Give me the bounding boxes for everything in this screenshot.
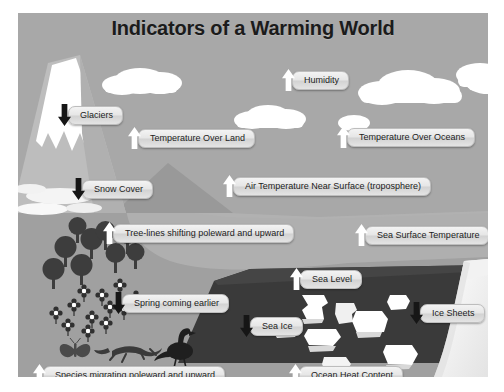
label-text: Ice Sheets — [420, 304, 485, 323]
label-temperature-over-land[interactable]: Temperature Over Land — [128, 127, 255, 149]
label-air-temperature-near-surface[interactable]: Air Temperature Near Surface (tropospher… — [223, 175, 431, 197]
arrow-down-icon — [58, 104, 71, 126]
label-glaciers[interactable]: Glaciers — [58, 104, 123, 126]
arrow-up-icon — [355, 224, 368, 246]
arrow-up-icon — [33, 364, 46, 377]
arrow-down-icon — [240, 315, 253, 337]
arrow-up-icon — [103, 222, 116, 244]
arrow-up-icon — [282, 69, 295, 91]
label-text: Humidity — [292, 71, 349, 90]
arrow-up-icon — [289, 364, 302, 377]
label-ice-sheets[interactable]: Ice Sheets — [410, 302, 485, 324]
label-tree-lines-shifting[interactable]: Tree-lines shifting poleward and upward — [103, 222, 294, 244]
label-text: Sea Surface Temperature — [365, 226, 488, 245]
label-text: Spring coming earlier — [122, 294, 229, 313]
label-text: Air Temperature Near Surface (tropospher… — [233, 177, 431, 196]
label-text: Temperature Over Oceans — [347, 128, 475, 147]
arrow-down-icon — [410, 302, 423, 324]
label-text: Glaciers — [68, 106, 123, 125]
arrow-up-icon — [290, 268, 303, 290]
arrow-up-icon — [128, 127, 141, 149]
label-snow-cover[interactable]: Snow Cover — [72, 178, 153, 200]
label-text: Species migrating poleward and upward — [43, 366, 225, 378]
label-text: Tree-lines shifting poleward and upward — [113, 224, 294, 243]
arrow-up-icon — [223, 175, 236, 197]
label-text: Temperature Over Land — [138, 129, 255, 148]
infographic-poster: Indicators of a Warming World Glaciers H… — [18, 13, 488, 377]
label-sea-ice[interactable]: Sea Ice — [240, 315, 303, 337]
label-text: Snow Cover — [82, 180, 153, 199]
arrow-down-icon — [112, 292, 125, 314]
page-title: Indicators of a Warming World — [18, 17, 488, 40]
label-sea-level[interactable]: Sea Level — [290, 268, 362, 290]
arrow-down-icon — [72, 178, 85, 200]
label-text: Sea Ice — [250, 317, 303, 336]
label-temperature-over-oceans[interactable]: Temperature Over Oceans — [337, 126, 475, 148]
label-ocean-heat-content[interactable]: Ocean Heat Content — [289, 364, 403, 377]
label-text: Sea Level — [300, 270, 362, 289]
arrow-up-icon — [337, 126, 350, 148]
label-humidity[interactable]: Humidity — [282, 69, 349, 91]
label-text: Ocean Heat Content — [299, 366, 403, 378]
label-sea-surface-temperature[interactable]: Sea Surface Temperature — [355, 224, 488, 246]
label-spring-coming-earlier[interactable]: Spring coming earlier — [112, 292, 229, 314]
label-species-migrating[interactable]: Species migrating poleward and upward — [33, 364, 225, 377]
